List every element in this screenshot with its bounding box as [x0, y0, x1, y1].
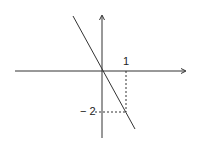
y-tick-label: − 2 — [80, 106, 96, 117]
x-tick-label: 1 — [123, 56, 129, 67]
coordinate-plane — [0, 0, 197, 144]
